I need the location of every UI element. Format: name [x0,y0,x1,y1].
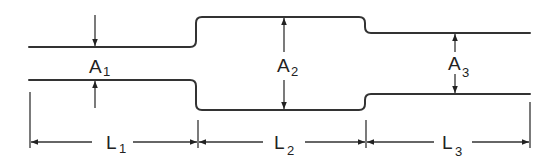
svg-text:3: 3 [455,144,462,159]
label-l2: L 2 [274,132,294,158]
svg-text:A: A [448,53,461,74]
svg-text:3: 3 [462,65,469,80]
svg-text:A: A [277,55,290,76]
svg-text:1: 1 [119,141,126,156]
svg-text:1: 1 [103,64,110,79]
svg-text:2: 2 [287,143,294,158]
expansion-chamber-diagram: A 1 A 2 A 3 L 1 L 2 L 3 [0,0,559,167]
label-l3: L 3 [442,132,462,159]
svg-text:L: L [106,132,117,153]
svg-text:A: A [89,56,102,77]
label-a3: A 3 [448,53,469,80]
label-a2: A 2 [277,55,298,79]
label-l1: L 1 [106,132,126,156]
label-a1: A 1 [89,56,110,79]
svg-text:L: L [442,132,453,153]
svg-text:L: L [274,132,285,153]
svg-text:2: 2 [291,64,298,79]
